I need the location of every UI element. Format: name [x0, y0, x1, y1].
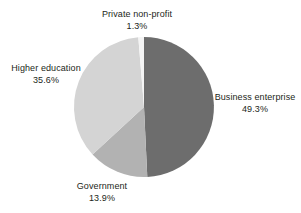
pie-slice-business-enterprise[interactable]	[144, 37, 214, 177]
pie-label-government-value: 13.9%	[60, 193, 144, 205]
pie-label-government-name: Government	[60, 181, 144, 193]
pie-label-higher-education-value: 35.6%	[6, 75, 86, 87]
pie-label-higher-education-name: Higher education	[6, 63, 86, 75]
pie-chart: Private non-profit 1.3% Higher education…	[0, 0, 301, 213]
pie-slices	[74, 37, 214, 177]
pie-label-private-non-profit-name: Private non-profit	[98, 9, 176, 21]
pie-label-business-enterprise-value: 49.3%	[211, 104, 299, 116]
pie-label-private-non-profit-value: 1.3%	[98, 21, 176, 33]
pie-label-business-enterprise-name: Business enterprise	[211, 92, 299, 104]
pie-label-higher-education: Higher education 35.6%	[6, 63, 86, 86]
pie-label-private-non-profit: Private non-profit 1.3%	[98, 9, 176, 32]
pie-label-business-enterprise: Business enterprise 49.3%	[211, 92, 299, 115]
pie-label-government: Government 13.9%	[60, 181, 144, 204]
